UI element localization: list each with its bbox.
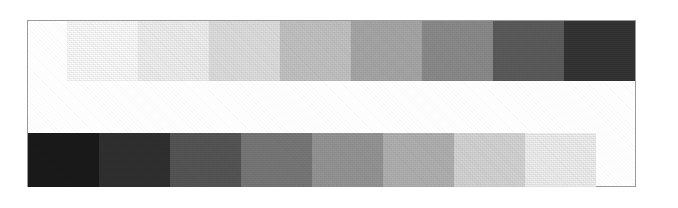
gray-patch-top-1 xyxy=(67,21,138,81)
gray-patch-top-4 xyxy=(280,21,351,81)
gray-patch-top-2 xyxy=(138,21,209,81)
figure-root xyxy=(0,0,678,208)
gray-patch-bottom-8 xyxy=(525,133,596,187)
gray-patch-bottom-7 xyxy=(454,133,525,187)
gray-patch-top-7 xyxy=(493,21,564,81)
gray-patch-bottom-5 xyxy=(312,133,383,187)
gray-patch-bottom-2 xyxy=(99,133,170,187)
step-wedge-frame xyxy=(27,20,636,187)
gray-patch-bottom-3 xyxy=(170,133,241,187)
gray-patch-bottom-1 xyxy=(28,133,99,187)
gray-patch-top-8 xyxy=(564,21,635,81)
gray-patch-bottom-6 xyxy=(383,133,454,187)
gray-patch-top-3 xyxy=(209,21,280,81)
figure-caption xyxy=(27,190,636,204)
step-wedge-row-top xyxy=(67,21,635,81)
gray-patch-top-6 xyxy=(422,21,493,81)
step-wedge-row-bottom xyxy=(28,133,596,187)
gray-patch-top-5 xyxy=(351,21,422,81)
gray-patch-bottom-4 xyxy=(241,133,312,187)
